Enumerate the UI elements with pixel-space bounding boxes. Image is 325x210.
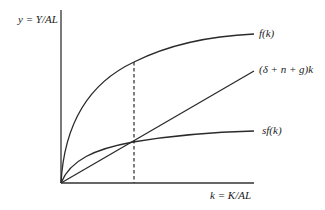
break-even-line bbox=[61, 71, 254, 183]
y-axis-label: y = Y/AL bbox=[17, 13, 58, 25]
saving-curve-label: sf(k) bbox=[262, 124, 282, 137]
x-axis-label: k = K/AL bbox=[210, 189, 251, 201]
break-even-line-label: (δ + n + g)k bbox=[259, 63, 314, 76]
production-curve bbox=[61, 34, 254, 183]
solow-diagram: y = Y/AL f(k) (δ + n + g)k sf(k) k = K/A… bbox=[0, 0, 325, 210]
production-curve-label: f(k) bbox=[259, 27, 275, 40]
saving-curve bbox=[61, 131, 254, 183]
